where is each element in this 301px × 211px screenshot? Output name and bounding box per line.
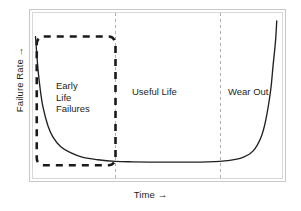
early-life-failures-highlight-box <box>37 37 116 166</box>
bathtub-curve-line <box>36 21 277 162</box>
bathtub-curve-figure: Failure Rate → Time → Early Life Failure… <box>0 0 301 211</box>
plot-graphics-layer <box>0 0 301 211</box>
